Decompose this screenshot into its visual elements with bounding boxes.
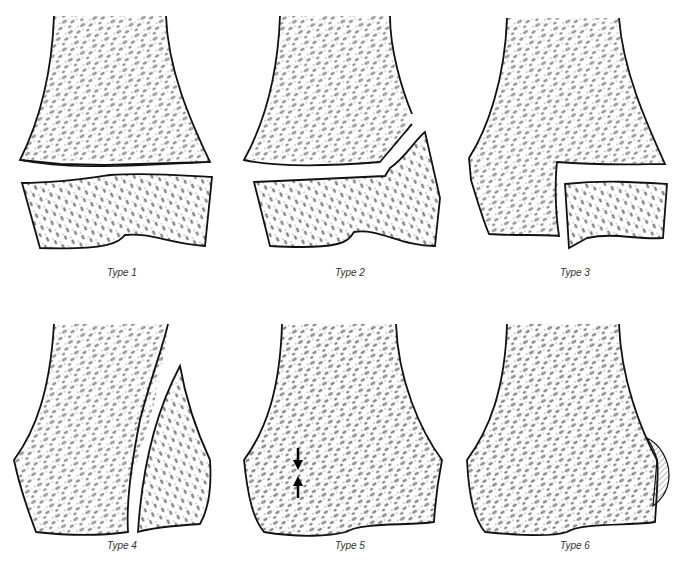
bone-illustration-type-5 — [230, 310, 455, 550]
bone-illustration-type-4 — [0, 310, 230, 550]
bone-illustration-type-1 — [0, 0, 230, 260]
label-type-4: Type 4 — [82, 540, 162, 551]
panel-type-6: Type 6 — [455, 310, 679, 579]
panel-type-1: Type 1 — [0, 0, 230, 290]
panel-type-5: Type 5 — [230, 310, 455, 579]
label-type-6: Type 6 — [535, 540, 615, 551]
label-type-5: Type 5 — [310, 540, 390, 551]
panel-type-3: Type 3 — [455, 0, 679, 290]
panel-type-4: Type 4 — [0, 310, 230, 579]
panel-type-2: Type 2 — [230, 0, 455, 290]
bone-illustration-type-2 — [230, 0, 455, 260]
label-type-3: Type 3 — [535, 267, 615, 278]
bone-illustration-type-6 — [455, 310, 679, 550]
label-type-2: Type 2 — [310, 267, 390, 278]
bone-illustration-type-3 — [455, 0, 679, 260]
label-type-1: Type 1 — [82, 267, 162, 278]
